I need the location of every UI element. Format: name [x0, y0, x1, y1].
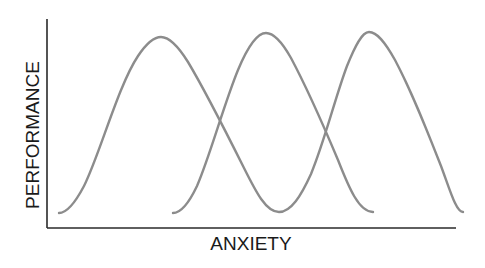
curve-a	[59, 32, 463, 213]
y-axis-label: PERFORMANCE	[22, 61, 43, 209]
x-axis-label: ANXIETY	[210, 233, 292, 254]
chart-canvas: ANXIETY PERFORMANCE	[0, 0, 485, 268]
curve-b	[173, 33, 373, 213]
